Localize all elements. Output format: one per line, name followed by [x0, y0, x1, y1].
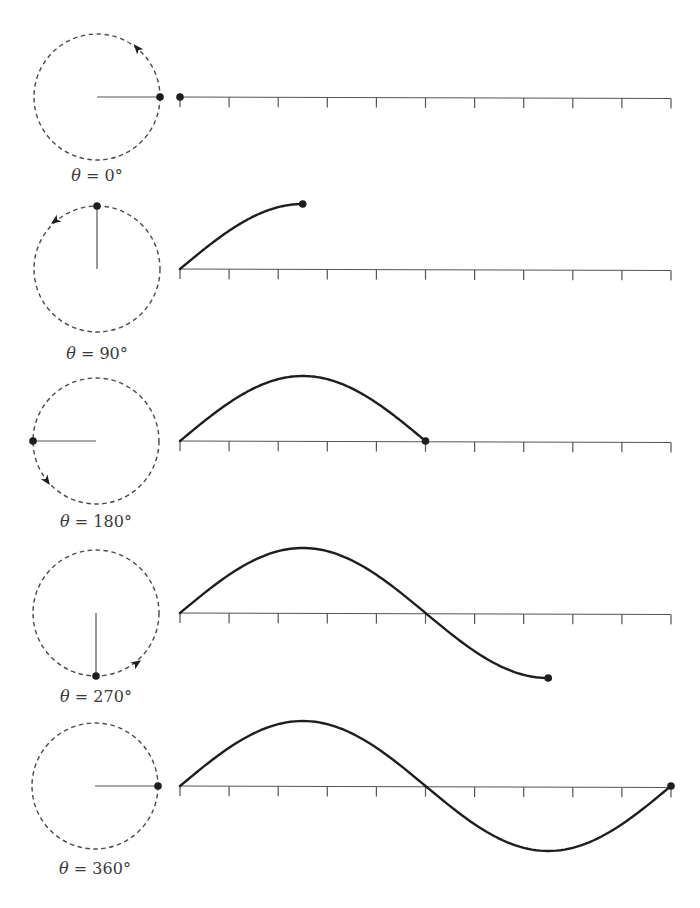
theta-symbol: θ: [60, 512, 70, 531]
panel-theta-360: [32, 721, 675, 851]
arrowhead: [131, 657, 144, 669]
curve-end-dot: [667, 782, 675, 790]
panel-theta-270: [33, 548, 671, 682]
angle-value: = 0°: [81, 166, 123, 185]
curve-end-dot: [422, 437, 430, 445]
angle-label: θ = 90°: [66, 346, 128, 362]
sine-curve: [180, 376, 426, 441]
phasor-tip-dot: [156, 93, 164, 101]
rotation-arrow-icon: [131, 657, 144, 669]
angle-label: θ = 0°: [71, 168, 122, 184]
sine-curve: [180, 204, 303, 269]
angle-value: = 360°: [69, 859, 131, 878]
theta-symbol: θ: [59, 859, 69, 878]
phasor-sine-figure: [0, 0, 700, 908]
theta-symbol: θ: [66, 344, 76, 363]
phasor-tip-dot: [92, 672, 100, 680]
phasor-tip-dot: [93, 202, 101, 210]
panel-theta-0: [34, 34, 671, 160]
angle-value: = 90°: [76, 344, 128, 363]
angle-label: θ = 180°: [60, 514, 132, 530]
panel-theta-180: [29, 376, 671, 504]
curve-end-dot: [176, 93, 184, 101]
angle-value: = 180°: [70, 512, 132, 531]
angle-label: θ = 360°: [59, 861, 131, 877]
angle-value: = 270°: [70, 687, 132, 706]
curve-end-dot: [544, 674, 552, 682]
curve-end-dot: [299, 200, 307, 208]
theta-symbol: θ: [60, 687, 70, 706]
arrowhead: [49, 215, 62, 227]
phasor-tip-dot: [154, 782, 162, 790]
rotation-arrow-icon: [49, 215, 62, 227]
panel-theta-90: [34, 200, 671, 332]
angle-label: θ = 270°: [60, 689, 132, 705]
phasor-tip-dot: [29, 437, 37, 445]
theta-symbol: θ: [71, 166, 81, 185]
